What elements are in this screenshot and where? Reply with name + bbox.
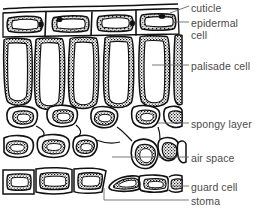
palisade-cell (139, 36, 170, 107)
label-epidermal-cell: epidermalcell (191, 17, 238, 41)
palisade-cell (34, 38, 64, 110)
leaf-cross-section-figure: cuticle epidermalcell palisade cell spon… (0, 0, 257, 211)
label-stoma: stoma (191, 195, 220, 207)
label-air-space: air space (191, 152, 235, 164)
spongy-cell (47, 105, 78, 126)
lower-epidermal-cell (40, 173, 69, 190)
label-spongy-layer: spongy layer (191, 118, 252, 130)
spongy-cell (132, 106, 160, 128)
lower-epidermal-cell (171, 179, 182, 189)
lower-epidermal-cell (78, 173, 102, 190)
spongy-cell (91, 107, 118, 128)
guard-cell (139, 175, 169, 192)
palisade-cell (103, 37, 133, 108)
label-epidermal-line1: epidermal (191, 17, 238, 29)
epidermal-cell (7, 16, 44, 32)
lower-epidermal-cell (7, 174, 31, 190)
guard-cell (109, 176, 142, 192)
spongy-cell (73, 135, 97, 156)
palisade-cell (68, 37, 98, 108)
spongy-mesophyll-layer (4, 105, 186, 168)
label-guard-cell: guard cell (191, 181, 238, 193)
epidermal-cell (140, 14, 176, 31)
palisade-cell (174, 35, 182, 105)
palisade-mesophyll-layer (4, 35, 182, 109)
label-epidermal-line2: cell (191, 29, 207, 41)
lower-epidermis-layer (3, 168, 182, 194)
spongy-cell (177, 141, 186, 163)
upper-epidermis-layer (3, 9, 179, 37)
spongy-cell (164, 106, 182, 127)
label-cuticle: cuticle (191, 2, 221, 14)
epidermal-cell (97, 15, 135, 31)
spongy-cell (4, 136, 33, 158)
palisade-cell (4, 38, 33, 105)
label-palisade-cell: palisade cell (191, 60, 250, 72)
epidermal-cell (52, 16, 89, 32)
spongy-cell (37, 135, 69, 158)
spongy-cell (7, 106, 38, 127)
spongy-cell (131, 139, 158, 168)
